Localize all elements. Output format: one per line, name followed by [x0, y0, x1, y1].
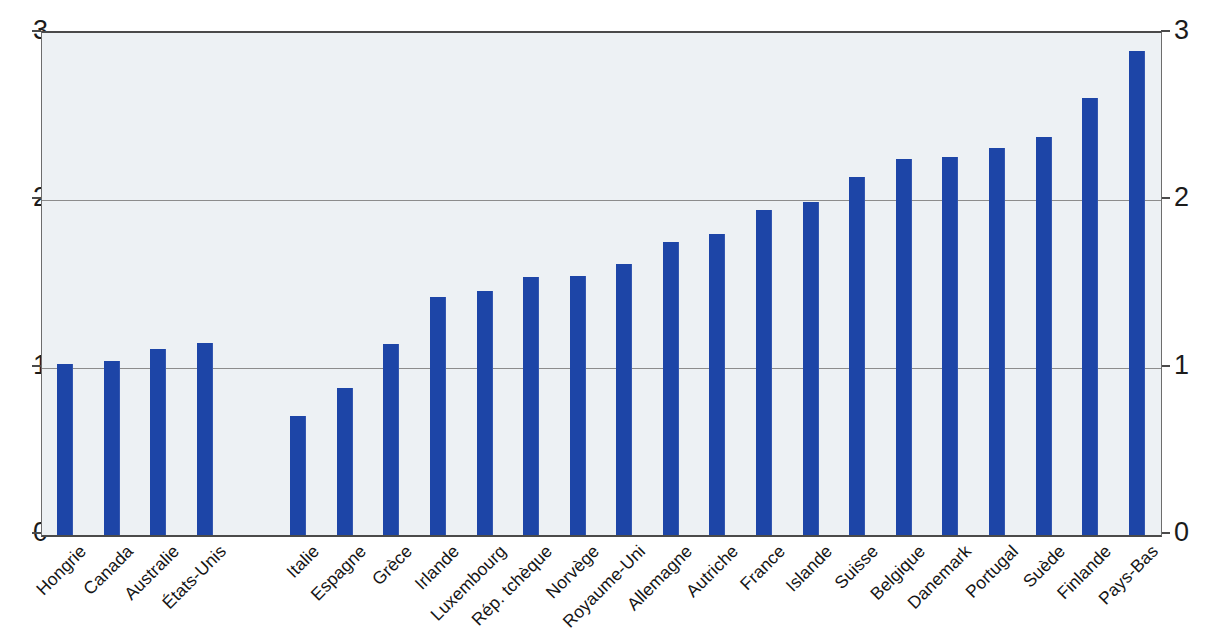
bar: [989, 148, 1005, 535]
bar: [290, 416, 306, 535]
bar: [104, 361, 120, 535]
bar: [150, 349, 166, 535]
bar: [663, 242, 679, 535]
bar: [756, 210, 772, 535]
bar: [616, 264, 632, 535]
bar: [57, 364, 73, 535]
x-axis-label: Grèce: [368, 541, 417, 590]
bar: [803, 202, 819, 535]
bar: [1082, 98, 1098, 535]
x-axis-category-labels: HongrieCanadaAustralieÉtats-UnisItalieEs…: [0, 533, 1222, 644]
bar: [523, 277, 539, 535]
y-tick-label-right-3: 3: [1174, 17, 1189, 44]
bar: [197, 343, 213, 535]
bar: [1036, 137, 1052, 535]
bar: [896, 159, 912, 536]
y-tick-mark-left-3: [32, 30, 41, 32]
bar: [942, 157, 958, 535]
x-axis-label: Hongrie: [32, 541, 91, 600]
y-tick-label-right-1: 1: [1174, 352, 1189, 379]
plot-inner: [42, 33, 1161, 535]
x-axis-label: France: [736, 541, 790, 595]
y-tick-mark-left-1: [32, 365, 41, 367]
bar: [849, 177, 865, 535]
bar: [383, 344, 399, 535]
bar: [570, 276, 586, 535]
y-tick-mark-right-2: [1161, 197, 1170, 199]
bar: [430, 297, 446, 535]
plot-area: [41, 31, 1162, 537]
x-axis-label: Islande: [781, 541, 836, 596]
bar-chart-figure: 0123 0123 HongrieCanadaAustralieÉtats-Un…: [0, 0, 1222, 644]
bar: [709, 234, 725, 535]
y-tick-mark-left-2: [32, 197, 41, 199]
bar: [337, 388, 353, 535]
bar: [477, 291, 493, 535]
x-axis-label: Italie: [283, 541, 324, 582]
y-tick-mark-right-3: [1161, 30, 1170, 32]
y-tick-label-right-2: 2: [1174, 184, 1189, 211]
y-tick-mark-right-1: [1161, 365, 1170, 367]
bar: [1129, 51, 1145, 535]
